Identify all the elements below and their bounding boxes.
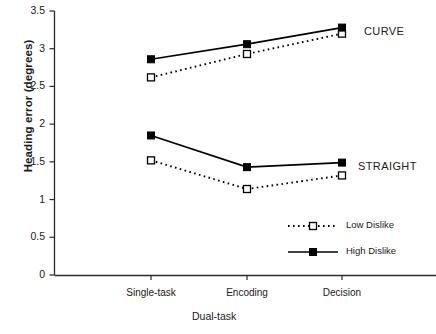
data-series-group — [148, 24, 346, 192]
y-axis-tick-label: 3.5 — [11, 4, 45, 16]
series-annotation-curve: CURVE — [364, 25, 404, 37]
series-annotation-straight: STRAIGHT — [358, 160, 417, 172]
legend-marks — [288, 223, 338, 256]
chart-axes — [50, 11, 436, 280]
y-axis-tick-label: 2 — [11, 117, 45, 129]
x-axis-title: Dual-task — [192, 310, 236, 322]
y-axis-tick-label: 1.5 — [11, 155, 45, 167]
y-axis-tick-label: 1 — [11, 193, 45, 205]
legend-item-low-dislike: Low Dislike — [346, 219, 394, 230]
y-axis-tick-label: 2.5 — [11, 79, 45, 91]
x-axis-tick-label: Single-task — [126, 287, 175, 298]
legend-item-high-dislike: High Dislike — [346, 245, 396, 256]
heading-error-line-chart: Heading error (degrees) Dual-task 00.511… — [0, 0, 436, 334]
y-axis-tick-label: 0.5 — [11, 230, 45, 242]
x-axis-tick-label: Encoding — [226, 287, 268, 298]
x-axis-tick-label: Decision — [323, 287, 361, 298]
y-axis-tick-label: 3 — [11, 42, 45, 54]
y-axis-tick-label: 0 — [11, 268, 45, 280]
